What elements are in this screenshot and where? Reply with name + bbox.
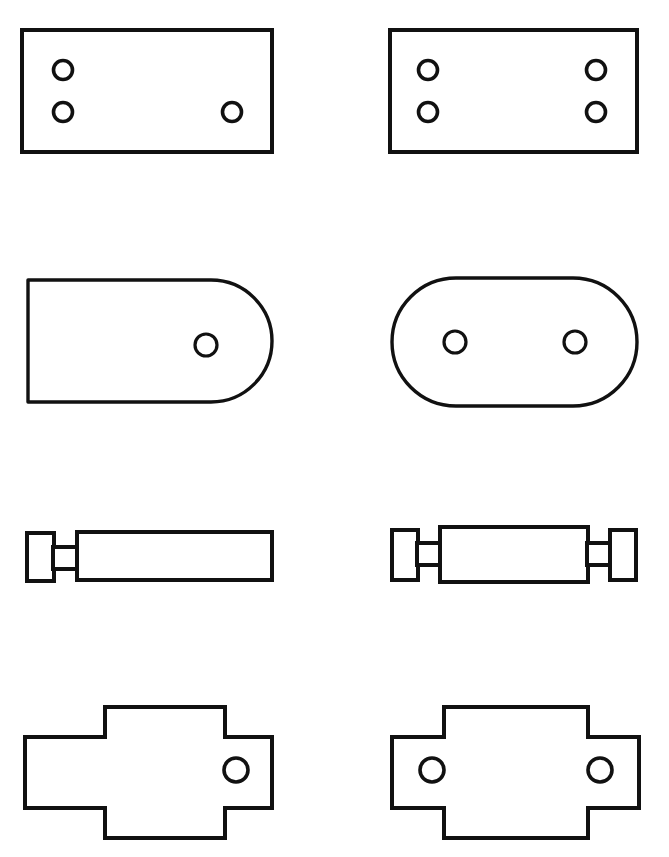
part-obround-link-symmetric	[392, 278, 637, 406]
hole	[223, 103, 242, 122]
collar-left	[392, 530, 418, 580]
hole	[587, 61, 606, 80]
collar-left	[27, 533, 54, 581]
part-shaft-with-double-collar	[392, 527, 636, 582]
hole	[54, 61, 73, 80]
part-drilled-rectangular-plate-symmetric	[390, 30, 637, 152]
hole	[419, 103, 438, 122]
hole	[195, 334, 217, 356]
neck-left	[53, 547, 78, 569]
collar-right	[610, 530, 636, 580]
part-cruciform-flange-symmetric	[392, 707, 639, 838]
plate-outline	[390, 30, 637, 152]
plate-outline	[22, 30, 272, 152]
hole	[419, 61, 438, 80]
neck-left	[417, 543, 441, 565]
part-cruciform-flange-asymmetric	[25, 707, 272, 838]
hole	[588, 758, 612, 782]
shaft-body	[77, 532, 272, 580]
hole	[224, 758, 248, 782]
neck-right	[587, 543, 611, 565]
part-drilled-rectangular-plate-asymmetric	[22, 30, 272, 152]
part-d-shaped-link-asymmetric	[28, 280, 272, 402]
hole	[420, 758, 444, 782]
hole	[54, 103, 73, 122]
shaft-body	[440, 527, 588, 582]
hole	[564, 331, 586, 353]
obround-outline	[392, 278, 637, 406]
parts-drawing-canvas	[0, 0, 669, 857]
part-shaft-with-single-collar	[27, 532, 272, 581]
drawing-sheet	[0, 0, 669, 857]
hole	[444, 331, 466, 353]
d-shape-outline	[28, 280, 272, 402]
hole	[587, 103, 606, 122]
